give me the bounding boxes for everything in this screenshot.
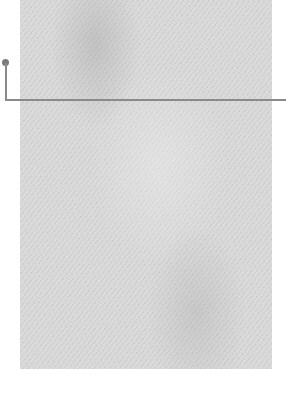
leader-line-horizontal [5, 99, 286, 101]
paper-texture-swatch [20, 0, 272, 369]
leader-line-vertical [5, 63, 7, 101]
